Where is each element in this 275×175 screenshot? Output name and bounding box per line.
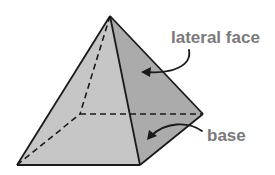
- pyramid-diagram: lateral face base: [0, 0, 275, 175]
- lateral-face-label: lateral face: [171, 28, 260, 47]
- base-label: base: [207, 126, 246, 145]
